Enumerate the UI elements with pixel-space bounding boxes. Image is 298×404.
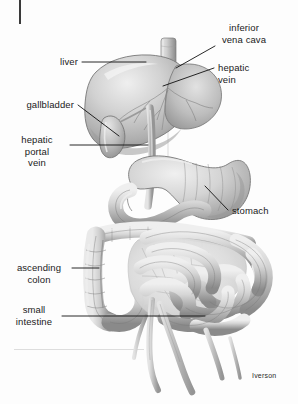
label-ascending-colon: ascending colon <box>8 262 70 285</box>
artist-signature: Iverson <box>252 372 276 379</box>
illustration-page: · · · · · · · ·· · · · <box>0 0 298 404</box>
label-hepatic-vein: hepatic vein <box>218 62 294 85</box>
label-stomach: stomach <box>232 205 294 217</box>
label-hepatic-portal-vein: hepatic portal vein <box>8 134 66 169</box>
label-gallbladder: gallbladder <box>4 99 74 111</box>
label-inferior-vena-cava: inferior vena cava <box>196 22 292 45</box>
label-small-intestine: small intestine <box>8 304 60 327</box>
label-liver: liver <box>28 56 78 68</box>
